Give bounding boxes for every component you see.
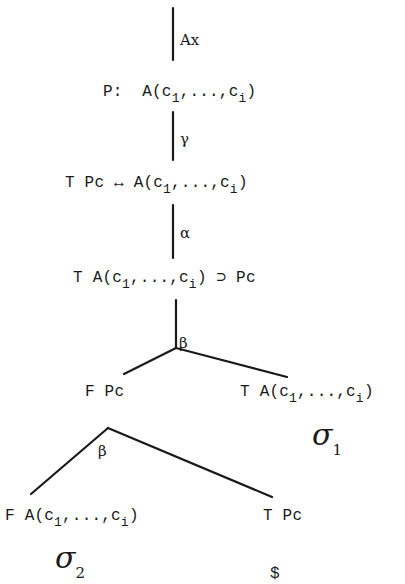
node-prefix: F (5, 507, 15, 525)
rule-label-alpha: α (180, 226, 190, 241)
formula-head: A(c (93, 269, 122, 287)
edge-beta2-left (31, 428, 108, 494)
formula-tail: ) (364, 383, 374, 401)
formula-head: A(c (260, 383, 289, 401)
edge-beta-right (176, 348, 287, 377)
subscript: i (356, 391, 364, 406)
edge-beta-left (124, 348, 176, 374)
edge-beta2-right (108, 428, 272, 497)
subscript: 1 (54, 515, 62, 530)
rule-label-ax: Ax (180, 33, 199, 48)
formula-tail: ) (246, 83, 256, 101)
formula-head: A(c (25, 507, 54, 525)
formula-tail: ) ⊃ Pc (197, 269, 256, 287)
sigma-symbol: σ (312, 417, 332, 452)
formula-head: A(c (142, 83, 171, 101)
formula-head: A(c (134, 174, 163, 192)
node-prefix: T (240, 383, 250, 401)
subscript: 2 (75, 564, 85, 582)
node-left-fpc: F Pc (85, 384, 124, 400)
formula-mid: ,...,c (62, 507, 121, 525)
node-prefix: P: (103, 83, 123, 101)
subscript: 1 (163, 182, 171, 197)
rule-label-beta-2: β (98, 444, 107, 459)
handwritten-sigma-2: σ2 (55, 543, 85, 573)
node-left-right-tpc: T Pc (263, 508, 302, 524)
formula-mid: ,...,c (171, 174, 230, 192)
subscript: 1 (172, 91, 180, 106)
rule-label-gamma: γ (180, 132, 189, 147)
node-implication: T A(c1,...,ci) ⊃ Pc (73, 270, 256, 286)
subscript: 1 (122, 277, 130, 292)
node-premise: P: A(c1,...,ci) (103, 84, 256, 100)
handwritten-sigma-1: σ1 (312, 420, 342, 450)
formula-mid: ,...,c (297, 383, 356, 401)
node-prefix: T Pc ↔ (65, 174, 124, 192)
subscript: i (230, 182, 238, 197)
formula-tail: ) (129, 507, 139, 525)
node-biconditional: T Pc ↔ A(c1,...,ci) (65, 175, 248, 191)
subscript: i (189, 277, 197, 292)
node-prefix: T (73, 269, 83, 287)
subscript: 1 (289, 391, 297, 406)
formula-mid: ,...,c (130, 269, 189, 287)
node-left-left-fa: F A(c1,...,ci) (5, 508, 139, 524)
formula-tail: ) (238, 174, 248, 192)
rule-label-beta: β (179, 336, 188, 351)
subscript: 1 (332, 441, 342, 459)
closed-branch-marker: $ (270, 566, 280, 582)
sigma-symbol: σ (55, 540, 75, 575)
subscript: i (121, 515, 129, 530)
formula-mid: ,...,c (180, 83, 239, 101)
node-right-ta: T A(c1,...,ci) (240, 384, 374, 400)
